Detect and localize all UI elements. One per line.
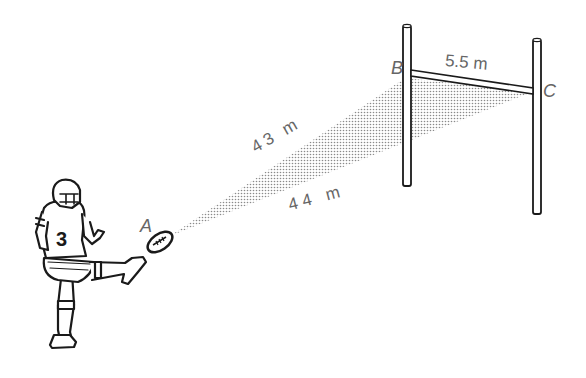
jersey-number: 3	[56, 228, 67, 250]
distance-label-bc: 5.5 m	[444, 51, 488, 75]
diagram-canvas: 3	[0, 0, 586, 378]
goal-post-left	[403, 24, 411, 186]
goal-post-right	[533, 38, 541, 214]
point-label-a: A	[140, 216, 152, 237]
point-label-c: C	[543, 81, 556, 102]
point-label-b: B	[391, 58, 403, 79]
shaded-triangle	[170, 78, 532, 236]
football-kicker	[36, 180, 146, 348]
